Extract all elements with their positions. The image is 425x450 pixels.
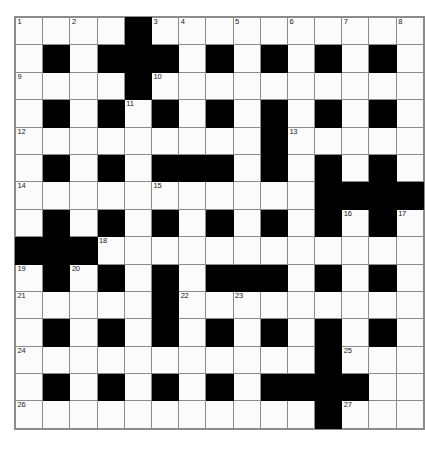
crossword-cell[interactable]: 1 [16, 18, 43, 45]
crossword-cell[interactable] [396, 401, 423, 428]
crossword-cell[interactable] [369, 401, 396, 428]
crossword-cell[interactable] [315, 127, 342, 154]
crossword-cell[interactable] [396, 374, 423, 401]
crossword-cell[interactable]: 10 [151, 72, 178, 99]
crossword-cell[interactable] [179, 374, 206, 401]
crossword-cell[interactable]: 20 [70, 264, 97, 291]
crossword-cell[interactable] [369, 237, 396, 264]
crossword-cell[interactable] [342, 127, 369, 154]
crossword-cell[interactable] [342, 154, 369, 181]
crossword-cell[interactable] [97, 18, 124, 45]
crossword-cell[interactable] [233, 182, 260, 209]
crossword-cell[interactable]: 13 [287, 127, 314, 154]
crossword-cell[interactable] [287, 182, 314, 209]
crossword-cell[interactable] [396, 319, 423, 346]
crossword-cell[interactable]: 4 [179, 18, 206, 45]
crossword-cell[interactable] [70, 401, 97, 428]
crossword-cell[interactable] [124, 291, 151, 318]
crossword-cell[interactable]: 12 [16, 127, 43, 154]
crossword-cell[interactable] [16, 319, 43, 346]
crossword-cell[interactable]: 25 [342, 346, 369, 373]
crossword-cell[interactable] [43, 291, 70, 318]
crossword-cell[interactable] [342, 72, 369, 99]
crossword-cell[interactable] [287, 209, 314, 236]
crossword-cell[interactable] [97, 127, 124, 154]
crossword-cell[interactable] [287, 237, 314, 264]
crossword-cell[interactable] [369, 72, 396, 99]
crossword-cell[interactable] [260, 291, 287, 318]
crossword-cell[interactable] [260, 182, 287, 209]
crossword-cell[interactable] [43, 182, 70, 209]
crossword-cell[interactable] [287, 346, 314, 373]
crossword-cell[interactable] [70, 182, 97, 209]
crossword-cell[interactable] [396, 100, 423, 127]
crossword-cell[interactable] [97, 291, 124, 318]
crossword-cell[interactable] [260, 18, 287, 45]
crossword-cell[interactable] [124, 154, 151, 181]
crossword-cell[interactable] [342, 319, 369, 346]
crossword-cell[interactable] [43, 346, 70, 373]
crossword-cell[interactable]: 19 [16, 264, 43, 291]
crossword-cell[interactable] [233, 100, 260, 127]
crossword-cell[interactable] [179, 209, 206, 236]
crossword-cell[interactable] [70, 127, 97, 154]
crossword-cell[interactable] [315, 18, 342, 45]
crossword-cell[interactable] [206, 346, 233, 373]
crossword-grid[interactable]: 1234567891011121314151617181920212223242… [15, 17, 424, 429]
crossword-cell[interactable] [233, 319, 260, 346]
crossword-cell[interactable] [342, 264, 369, 291]
crossword-cell[interactable]: 24 [16, 346, 43, 373]
crossword-cell[interactable] [233, 237, 260, 264]
crossword-cell[interactable] [70, 291, 97, 318]
crossword-cell[interactable] [260, 346, 287, 373]
crossword-cell[interactable]: 11 [124, 100, 151, 127]
crossword-cell[interactable] [287, 154, 314, 181]
crossword-cell[interactable] [124, 346, 151, 373]
crossword-cell[interactable] [287, 264, 314, 291]
crossword-cell[interactable] [233, 209, 260, 236]
crossword-cell[interactable] [287, 45, 314, 72]
crossword-cell[interactable] [179, 401, 206, 428]
crossword-cell[interactable] [206, 72, 233, 99]
crossword-cell[interactable] [179, 182, 206, 209]
crossword-cell[interactable] [179, 100, 206, 127]
crossword-cell[interactable] [342, 100, 369, 127]
crossword-cell[interactable] [369, 346, 396, 373]
crossword-cell[interactable] [97, 182, 124, 209]
crossword-cell[interactable] [151, 346, 178, 373]
crossword-cell[interactable]: 15 [151, 182, 178, 209]
crossword-cell[interactable] [233, 154, 260, 181]
crossword-cell[interactable]: 7 [342, 18, 369, 45]
crossword-cell[interactable]: 3 [151, 18, 178, 45]
crossword-cell[interactable] [233, 45, 260, 72]
crossword-cell[interactable] [396, 127, 423, 154]
crossword-cell[interactable] [16, 154, 43, 181]
crossword-cell[interactable] [124, 209, 151, 236]
crossword-cell[interactable] [16, 100, 43, 127]
crossword-cell[interactable] [151, 237, 178, 264]
crossword-cell[interactable]: 16 [342, 209, 369, 236]
crossword-cell[interactable]: 23 [233, 291, 260, 318]
crossword-cell[interactable] [43, 401, 70, 428]
crossword-cell[interactable] [179, 127, 206, 154]
crossword-cell[interactable] [124, 319, 151, 346]
crossword-cell[interactable] [179, 264, 206, 291]
crossword-cell[interactable] [396, 291, 423, 318]
crossword-cell[interactable] [70, 100, 97, 127]
crossword-cell[interactable] [97, 401, 124, 428]
crossword-cell[interactable] [124, 401, 151, 428]
crossword-cell[interactable] [287, 72, 314, 99]
crossword-cell[interactable] [287, 291, 314, 318]
crossword-cell[interactable] [369, 127, 396, 154]
crossword-cell[interactable] [369, 374, 396, 401]
crossword-cell[interactable]: 2 [70, 18, 97, 45]
crossword-cell[interactable] [179, 237, 206, 264]
crossword-cell[interactable] [124, 264, 151, 291]
crossword-cell[interactable] [124, 127, 151, 154]
crossword-cell[interactable] [233, 374, 260, 401]
crossword-cell[interactable]: 21 [16, 291, 43, 318]
crossword-cell[interactable] [206, 18, 233, 45]
crossword-cell[interactable] [396, 72, 423, 99]
crossword-cell[interactable] [396, 45, 423, 72]
crossword-cell[interactable] [16, 45, 43, 72]
